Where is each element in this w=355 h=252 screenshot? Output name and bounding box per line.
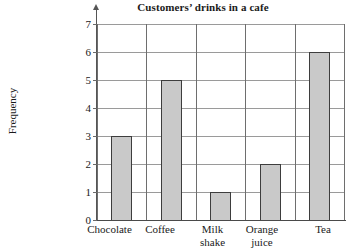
bar-chocolate <box>111 136 132 220</box>
plot-area: 7 6 5 4 3 2 1 <box>97 24 345 220</box>
gridline-6 <box>97 52 345 53</box>
chart-title: Customers’ drinks in a cafe <box>108 1 298 14</box>
y-tickmark-0 <box>93 220 97 221</box>
bar-milk-shake <box>210 192 231 220</box>
y-axis-label: Frequency <box>6 66 18 156</box>
gridline-5 <box>97 80 345 81</box>
bar-orange-juice <box>260 164 281 220</box>
gridline-7 <box>97 24 345 25</box>
gridline-4 <box>97 108 345 109</box>
x-axis-line <box>96 220 346 221</box>
bar-chart-figure: Customers’ drinks in a cafe Frequency 7 … <box>0 0 355 252</box>
gridline-3 <box>97 136 345 137</box>
category-separator-1 <box>146 24 147 220</box>
y-tick-label-5: 5 <box>86 75 92 86</box>
y-tick-label-7: 7 <box>86 19 92 30</box>
category-separator-5 <box>344 24 345 220</box>
category-label-tea: Tea <box>287 223 355 236</box>
y-tick-label-6: 6 <box>86 47 92 58</box>
category-separator-3 <box>245 24 246 220</box>
category-separator-4 <box>295 24 296 220</box>
y-tick-label-1: 1 <box>86 187 92 198</box>
y-tick-label-3: 3 <box>86 131 92 142</box>
y-tick-label-2: 2 <box>86 159 92 170</box>
category-separator-0 <box>97 24 98 220</box>
category-separator-2 <box>196 24 197 220</box>
gridline-2 <box>97 164 345 165</box>
bar-coffee <box>161 80 182 220</box>
bar-tea <box>309 52 330 220</box>
y-tick-label-4: 4 <box>86 103 92 114</box>
